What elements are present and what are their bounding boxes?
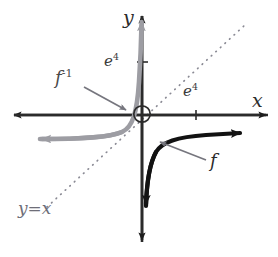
f-curve-label: f: [210, 152, 217, 170]
f-inverse-curve-left-tail: [42, 132, 122, 139]
reference-line-label-equals: =: [28, 198, 42, 218]
x-tick-exponent: 4: [192, 81, 198, 92]
f-inverse-annotation-arrow: [84, 87, 126, 110]
x-tick-base: e: [183, 82, 192, 100]
y-axis-tick-label-e4: e4: [104, 54, 119, 69]
f-curve: [146, 133, 240, 206]
f-inverse-curve-label: f-1: [55, 69, 73, 87]
f-curve-down-tail: [146, 152, 156, 204]
reference-line-label: y=x: [18, 200, 51, 217]
function-inverse-graph-figure: y x e4 e4 f-1 f y=x: [0, 0, 278, 257]
y-tick-exponent: 4: [113, 51, 119, 62]
f-inverse-exponent: -1: [62, 67, 73, 80]
reference-line-label-x: x: [42, 198, 52, 218]
y-tick-base: e: [104, 52, 113, 70]
graph-canvas: [0, 0, 278, 257]
x-axis-tick-label-e4: e4: [183, 84, 198, 99]
f-inverse-base: f: [55, 67, 62, 88]
reference-line-label-y: y: [18, 198, 28, 218]
f-annotation-arrow: [160, 142, 206, 160]
x-axis-label: x: [252, 91, 263, 110]
y-axis-label: y: [123, 8, 134, 27]
f-base: f: [210, 150, 217, 171]
